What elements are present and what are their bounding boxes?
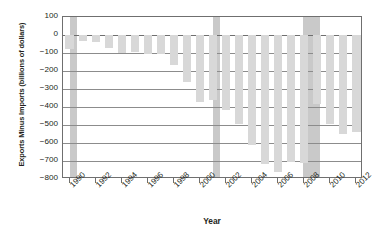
bar-1994 xyxy=(118,35,126,53)
x-axis-tick-labels: 1990199219941996199820002002200420062008… xyxy=(62,183,362,213)
y-tick-label--700: −700 xyxy=(22,156,58,164)
y-tick-label--100: −100 xyxy=(22,48,58,56)
bar-2011 xyxy=(339,35,347,134)
bar-1993 xyxy=(105,35,113,48)
gridline xyxy=(63,161,361,162)
y-axis-tick-labels: 1000−100−200−300−400−500−600−700−800 xyxy=(22,16,58,178)
bar-2006 xyxy=(274,35,282,172)
bar-2012 xyxy=(352,35,360,132)
bar-1995 xyxy=(131,35,139,52)
y-tick-label--800: −800 xyxy=(22,174,58,182)
plot-area xyxy=(62,16,362,178)
y-tick-label--400: −400 xyxy=(22,102,58,110)
bar-2003 xyxy=(235,35,243,124)
bar-2004 xyxy=(248,35,256,145)
gridline xyxy=(63,107,361,108)
bar-2001 xyxy=(209,35,217,100)
y-tick-label--600: −600 xyxy=(22,138,58,146)
y-tick-label-100: 100 xyxy=(22,12,58,20)
gridline xyxy=(63,143,361,144)
bar-2008 xyxy=(300,35,308,163)
bar-1998 xyxy=(170,35,178,65)
bar-1991 xyxy=(79,35,87,41)
bar-2010 xyxy=(326,35,334,124)
bar-2009 xyxy=(313,35,321,104)
bar-1997 xyxy=(157,35,165,54)
gridline xyxy=(63,125,361,126)
y-tick-label--300: −300 xyxy=(22,84,58,92)
bar-1999 xyxy=(183,35,191,82)
y-tick-label-0: 0 xyxy=(22,30,58,38)
bar-1990 xyxy=(65,35,73,49)
trade-balance-chart-figure: Exports Minus Imports (billions of dolla… xyxy=(0,0,380,237)
x-axis-title: Year xyxy=(62,216,362,226)
y-tick-label--500: −500 xyxy=(22,120,58,128)
bar-2002 xyxy=(222,35,230,110)
bar-2005 xyxy=(261,35,269,164)
bar-2000 xyxy=(196,35,204,102)
plot-inner xyxy=(63,17,361,177)
y-tick-label--200: −200 xyxy=(22,66,58,74)
bar-1992 xyxy=(92,35,100,42)
bar-2007 xyxy=(287,35,295,162)
bar-1996 xyxy=(144,35,152,54)
